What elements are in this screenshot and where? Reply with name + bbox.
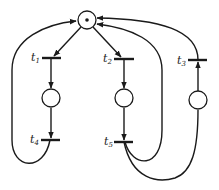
place-p3 [189,91,207,109]
label-t4: t4 [30,133,39,147]
label-t3: t3 [177,54,186,68]
token-icon [85,18,89,22]
arc-t3-p0 [97,18,198,60]
place-p1 [42,89,60,107]
petri-net-diagram: t1 t2 t3 t4 t5 [0,0,219,190]
label-t1: t1 [31,51,40,65]
label-t5: t5 [104,135,113,149]
label-t2: t2 [103,52,112,66]
place-p2 [115,89,133,107]
arc-p0-t1 [54,27,81,56]
arc-t5-p3 [124,110,198,180]
